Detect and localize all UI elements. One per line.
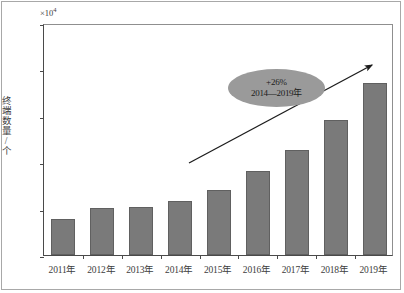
x-tick-mark (355, 255, 356, 259)
x-tick-label: 2014年 (165, 262, 193, 276)
x-tick-mark (122, 255, 123, 259)
annotation-callout: +26% 2014—2019年 (228, 69, 325, 107)
y-tick-mark (40, 211, 44, 212)
bar (129, 207, 153, 255)
x-tick-label: 2012年 (87, 262, 115, 276)
y-tick-mark (40, 257, 44, 258)
x-tick-label: 2013年 (126, 262, 154, 276)
x-tick-label: 2015年 (204, 262, 232, 276)
x-tick-label: 2018年 (321, 262, 349, 276)
y-axis-title: 终端数量/个 (0, 96, 12, 156)
bar (285, 150, 309, 255)
x-tick-label: 2017年 (282, 262, 310, 276)
x-tick-mark (238, 255, 239, 259)
annotation-percent: +26% (266, 77, 287, 88)
bar (168, 201, 192, 255)
y-tick-mark (40, 25, 44, 26)
y-axis-multiplier-exponent: 4 (53, 6, 56, 13)
y-tick-mark (40, 164, 44, 165)
annotation-range: 2014—2019年 (251, 88, 302, 99)
bar (90, 208, 114, 255)
y-axis-multiplier: ×104 (40, 6, 57, 18)
x-tick-mark (277, 255, 278, 259)
x-tick-mark (161, 255, 162, 259)
bar (207, 190, 231, 255)
y-tick-mark (40, 71, 44, 72)
x-tick-mark (83, 255, 84, 259)
x-tick-mark (200, 255, 201, 259)
bar (324, 120, 348, 255)
chart-figure: ×104 终端数量/个 050100150200250 +26% 2014—20… (0, 0, 404, 293)
x-tick-label: 2016年 (243, 262, 271, 276)
x-tick-label: 2019年 (360, 262, 388, 276)
x-tick-mark (316, 255, 317, 259)
y-axis-multiplier-base: ×10 (40, 8, 53, 18)
x-tick-label: 2011年 (49, 262, 77, 276)
bar (51, 219, 75, 255)
plot-area: 050100150200250 +26% 2014—2019年 (43, 24, 393, 256)
bar (363, 83, 387, 255)
bar (246, 171, 270, 255)
y-tick-mark (40, 118, 44, 119)
